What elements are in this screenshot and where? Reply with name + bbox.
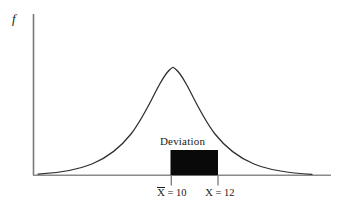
tick-label-mean: X = 10 bbox=[146, 188, 198, 199]
deviation-label-text: Deviation bbox=[160, 135, 205, 147]
observation-value-text: = 12 bbox=[213, 187, 235, 198]
deviation-shaded-rect bbox=[171, 150, 219, 175]
mean-value-text: = 10 bbox=[165, 187, 187, 198]
deviation-label: Deviation bbox=[0, 136, 341, 147]
deviation-distribution-figure: f Deviation X = 10 X = 12 bbox=[0, 0, 341, 214]
tick-label-observation: X = 12 bbox=[194, 188, 246, 199]
distribution-plot bbox=[0, 0, 341, 214]
y-axis-label: f bbox=[12, 12, 16, 25]
observation-symbol: X bbox=[205, 187, 213, 198]
mean-symbol: X bbox=[157, 188, 165, 199]
